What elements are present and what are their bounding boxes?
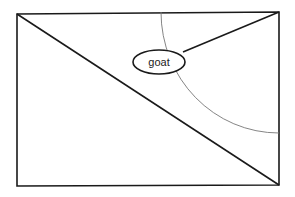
goat-label: goat <box>148 56 169 68</box>
diagonal-line <box>17 14 279 185</box>
goat-field-diagram: goat <box>0 0 295 197</box>
grazing-arc <box>161 12 279 133</box>
tether-line <box>183 12 279 52</box>
